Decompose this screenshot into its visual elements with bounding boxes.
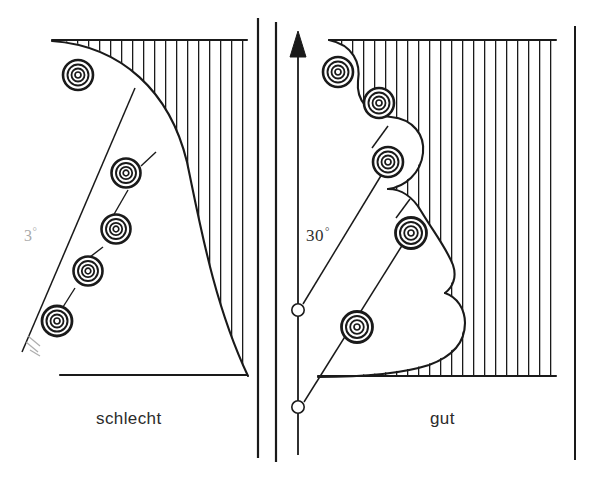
feed-line-top — [372, 126, 388, 148]
tool-symbol — [74, 257, 103, 286]
angle-value-left: 3 — [24, 227, 33, 244]
tool-symbol — [396, 218, 427, 249]
tool-symbol — [364, 88, 394, 118]
axis-arrowhead-icon — [290, 31, 306, 57]
figure-canvas: schlecht gut 30° 3° — [0, 0, 602, 483]
right-workpiece-hatching — [300, 36, 570, 384]
left-panel-group — [22, 36, 260, 384]
tool-symbol — [323, 57, 353, 87]
tool-symbol — [112, 159, 141, 188]
pivot-marker — [292, 401, 304, 413]
panel-label-schlecht: schlecht — [96, 409, 162, 429]
tool-symbol — [373, 147, 403, 177]
tool-symbol — [342, 312, 373, 343]
tool-symbol — [102, 215, 131, 244]
right-axis — [290, 31, 306, 455]
panel-label-gut: gut — [430, 409, 455, 429]
angle-label-right: 30° — [306, 225, 330, 246]
left-tool-symbols — [42, 60, 141, 336]
degree-symbol-right: ° — [325, 225, 330, 237]
pivot-marker — [292, 304, 304, 316]
diagram-svg — [0, 0, 602, 483]
right-panel-group — [290, 31, 570, 455]
tool-symbol — [63, 60, 93, 90]
tool-symbol — [42, 306, 72, 336]
angle-value-right: 30 — [306, 226, 324, 245]
degree-symbol-left: ° — [33, 225, 38, 237]
angle-label-left: 3° — [24, 225, 37, 245]
feed-line-mid — [396, 199, 410, 218]
